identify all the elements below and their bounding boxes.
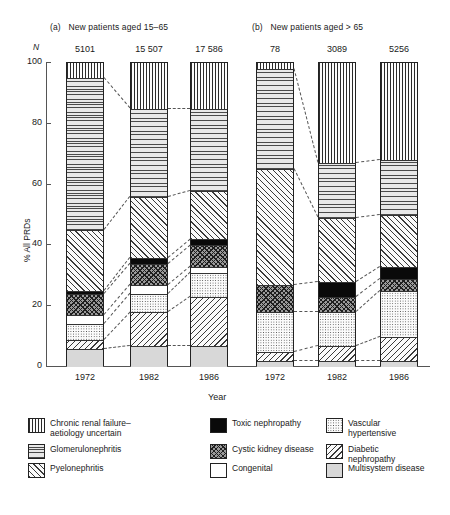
x-axis-line: [46, 366, 430, 367]
connector-diabetic-nephropathy-4-5: [356, 360, 380, 361]
segment-b-1972-glomerulonephritis: [257, 69, 293, 169]
x-tick-label-b-1986: 1986: [368, 372, 430, 382]
legend-item-diabetic-nephropathy[interactable]: Diabetic nephropathy: [326, 444, 428, 464]
bar-a-1972: [66, 62, 104, 366]
connector-vascular-hypertensive-1-2: [168, 296, 191, 312]
legend-swatch-crosshatch-icon: [210, 444, 227, 459]
x-tick-label-a-1982: 1982: [118, 372, 180, 382]
y-tick-label-60: 60: [20, 178, 42, 188]
legend-swatch-solid-grey-icon: [326, 463, 343, 478]
segment-a-1982-diabetic-nephropathy: [131, 312, 167, 345]
y-tick-label-40: 40: [20, 238, 42, 248]
connector-pyelonephritis-3-4: [294, 281, 318, 285]
segment-b-1982-toxic-nephropathy: [319, 282, 355, 297]
connector-diabetic-nephropathy-1-2: [168, 345, 190, 346]
connector-vascular-hypertensive-0-1: [104, 311, 131, 339]
n-value-b-1986: 5256: [368, 44, 430, 54]
legend-label: Pyelonephritis: [50, 463, 103, 474]
segment-a-1972-chronic-renal-failure-aetiology-uncertain: [67, 63, 103, 78]
segment-b-1986-cystic-kidney-disease: [381, 279, 417, 291]
y-tick-20: [47, 305, 51, 306]
legend-swatch-vertical-lines-icon: [28, 418, 45, 433]
segment-a-1986-multisystem-disease: [191, 346, 227, 367]
connector-vascular-hypertensive-3-4: [294, 345, 318, 352]
legend-swatch-solid-black-icon: [210, 418, 227, 433]
y-axis-line: [46, 62, 47, 366]
legend-swatch-horizontal-lines-icon: [28, 444, 45, 459]
y-tick-60: [47, 184, 51, 185]
segment-b-1972-pyelonephritis: [257, 169, 293, 285]
segment-b-1982-diabetic-nephropathy: [319, 346, 355, 361]
legend-label: Chronic renal failure– aetiology uncerta…: [50, 418, 131, 438]
segment-b-1986-chronic-renal-failure-aetiology-uncertain: [381, 63, 417, 160]
segment-a-1982-multisystem-disease: [131, 346, 167, 367]
legend-item-multisystem-disease[interactable]: Multisystem disease: [326, 463, 425, 478]
segment-b-1986-multisystem-disease: [381, 361, 417, 367]
legend-swatch-white-icon: [210, 463, 227, 478]
x-tick-label-a-1986: 1986: [178, 372, 240, 382]
connector-chronic-renal-failure-aetiology-uncertain-1-2: [168, 108, 190, 109]
segment-b-1982-multisystem-disease: [319, 361, 355, 367]
legend-item-glomerulonephritis[interactable]: Glomerulonephritis: [28, 444, 121, 459]
segment-a-1986-glomerulonephritis: [191, 109, 227, 191]
segment-b-1986-diabetic-nephropathy: [381, 337, 417, 361]
n-value-a-1986: 17 586: [178, 44, 240, 54]
bar-b-1982: [318, 62, 356, 366]
segment-a-1972-pyelonephritis: [67, 230, 103, 291]
segment-b-1982-chronic-renal-failure-aetiology-uncertain: [319, 63, 355, 163]
legend-label: Cystic kidney disease: [232, 444, 314, 455]
segment-b-1986-toxic-nephropathy: [381, 267, 417, 279]
bar-b-1986: [380, 62, 418, 366]
legend-item-chronic-renal-failure-aetiology-uncertain[interactable]: Chronic renal failure– aetiology uncerta…: [28, 418, 131, 438]
legend-swatch-diagonal-lines-right-icon: [326, 444, 343, 459]
segment-b-1982-glomerulonephritis: [319, 163, 355, 218]
segment-a-1982-chronic-renal-failure-aetiology-uncertain: [131, 63, 167, 109]
n-value-b-1972: 78: [244, 44, 306, 54]
legend-item-pyelonephritis[interactable]: Pyelonephritis: [28, 463, 103, 478]
segment-a-1982-vascular-hypertensive: [131, 294, 167, 312]
bar-b-1972: [256, 62, 294, 366]
y-tick-80: [47, 123, 51, 124]
legend-label: Toxic nephropathy: [232, 418, 301, 429]
segment-b-1986-vascular-hypertensive: [381, 291, 417, 337]
connector-glomerulonephritis-0-1: [104, 196, 131, 230]
segment-a-1972-glomerulonephritis: [67, 78, 103, 230]
legend-item-vascular-hypertensive[interactable]: Vascular hypertensive: [326, 418, 428, 438]
y-tick-0: [47, 366, 51, 367]
legend-label: Multisystem disease: [348, 463, 425, 474]
connector-glomerulonephritis-3-4: [294, 169, 319, 218]
n-value-a-1982: 15 507: [118, 44, 180, 54]
n-value-b-1982: 3089: [306, 44, 368, 54]
segment-b-1982-vascular-hypertensive: [319, 312, 355, 345]
connector-chronic-renal-failure-aetiology-uncertain-0-1: [104, 77, 131, 108]
legend-label: Vascular hypertensive: [348, 418, 428, 438]
connector-glomerulonephritis-1-2: [168, 190, 190, 197]
legend-label: Glomerulonephritis: [50, 444, 121, 455]
legend-label: Diabetic nephropathy: [348, 444, 428, 464]
panel-b-tag: (b): [252, 22, 263, 32]
connector-toxic-nephropathy-4-5: [356, 278, 381, 297]
legend-item-cystic-kidney-disease[interactable]: Cystic kidney disease: [210, 444, 314, 459]
segment-a-1972-vascular-hypertensive: [67, 324, 103, 339]
connector-diabetic-nephropathy-0-1: [104, 345, 130, 349]
connector-cystic-kidney-disease-3-4: [294, 311, 318, 312]
y-tick-40: [47, 244, 51, 245]
segment-b-1982-pyelonephritis: [319, 218, 355, 282]
bar-a-1986: [190, 62, 228, 366]
x-tick-label-b-1972: 1972: [244, 372, 306, 382]
segment-b-1972-cystic-kidney-disease: [257, 285, 293, 312]
connector-toxic-nephropathy-0-1: [104, 263, 131, 294]
panel-a-tag: (a): [50, 22, 61, 32]
segment-a-1972-congenital: [67, 315, 103, 324]
x-tick-label-b-1982: 1982: [306, 372, 368, 382]
figure-root: (a) New patients aged 15–65 (b) New pati…: [0, 0, 450, 515]
segment-a-1986-vascular-hypertensive: [191, 273, 227, 297]
legend-item-congenital[interactable]: Congenital: [210, 463, 273, 478]
x-axis-title: Year: [208, 392, 226, 402]
legend-item-toxic-nephropathy[interactable]: Toxic nephropathy: [210, 418, 301, 433]
segment-a-1982-glomerulonephritis: [131, 109, 167, 197]
x-tick-label-a-1972: 1972: [54, 372, 116, 382]
segment-a-1982-cystic-kidney-disease: [131, 264, 167, 285]
connector-glomerulonephritis-4-5: [356, 214, 380, 218]
legend-swatch-diagonal-lines-left-icon: [28, 463, 45, 478]
